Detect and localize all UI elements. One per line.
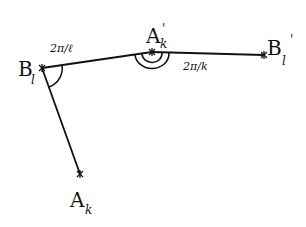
point-label-blprime-sub: l [282, 54, 286, 68]
point-label-akprime: A [145, 24, 161, 48]
diagram-canvas: B l 2π/ℓ A ' k 2π/k B ' l A k [0, 0, 306, 227]
angle-label-akprime: 2π/k [182, 60, 208, 73]
star-marker-ak [77, 170, 83, 178]
point-label-bl-sub: l [31, 73, 35, 87]
point-label-ak: A [69, 188, 85, 212]
point-label-akprime-sup: ' [162, 22, 165, 36]
angle-arc-bl [49, 65, 62, 87]
segment-bl-ak [42, 68, 80, 174]
point-label-blprime: B [267, 36, 282, 60]
point-label-akprime-sub: k [160, 37, 167, 51]
point-label-ak-sub: k [85, 203, 92, 217]
angle-label-bl: 2π/ℓ [49, 42, 73, 55]
point-label-blprime-sup: ' [290, 33, 293, 47]
